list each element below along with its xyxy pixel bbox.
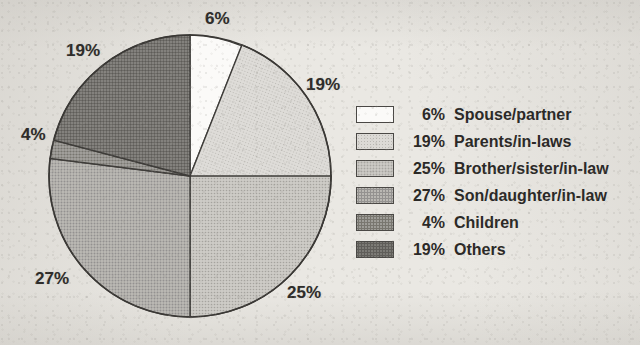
pie-chart-figure: 6% 19% 25% 27% 4% 19% 6% Spouse/partner … xyxy=(0,0,640,345)
legend-label: Son/daughter/in-law xyxy=(454,187,607,205)
legend-label: Spouse/partner xyxy=(454,106,571,124)
legend-percent: 27% xyxy=(403,187,445,205)
legend-swatch-icon xyxy=(356,241,394,258)
legend-item-son-daughter-in-law: 27% Son/daughter/in-law xyxy=(356,182,609,209)
legend-item-brother-sister-in-law: 25% Brother/sister/in-law xyxy=(356,155,609,182)
pie-label-others: 19% xyxy=(66,41,100,61)
pie-label-son-daughter-in-law: 27% xyxy=(35,269,69,289)
chart-legend: 6% Spouse/partner 19% Parents/in-laws 25… xyxy=(356,101,609,263)
legend-percent: 6% xyxy=(403,106,445,124)
legend-item-spouse-partner: 6% Spouse/partner xyxy=(356,101,609,128)
legend-swatch-icon xyxy=(356,187,394,204)
pie-label-parents-in-laws: 19% xyxy=(306,75,340,95)
legend-percent: 19% xyxy=(403,241,445,259)
legend-item-parents-in-laws: 19% Parents/in-laws xyxy=(356,128,609,155)
scanned-page: 6% 19% 25% 27% 4% 19% 6% Spouse/partner … xyxy=(0,0,640,345)
legend-swatch-icon xyxy=(356,133,394,150)
pie-label-spouse-partner: 6% xyxy=(205,9,230,29)
pie-label-brother-sister-in-law: 25% xyxy=(287,283,321,303)
legend-swatch-icon xyxy=(356,106,394,123)
legend-percent: 25% xyxy=(403,160,445,178)
legend-percent: 4% xyxy=(403,214,445,232)
legend-label: Brother/sister/in-law xyxy=(454,160,609,178)
pie-slice-son-daughter-in-law xyxy=(49,159,190,317)
legend-swatch-icon xyxy=(356,214,394,231)
legend-label: Parents/in-laws xyxy=(454,133,571,151)
legend-swatch-icon xyxy=(356,160,394,177)
legend-item-children: 4% Children xyxy=(356,209,609,236)
legend-label: Children xyxy=(454,214,519,232)
legend-item-others: 19% Others xyxy=(356,236,609,263)
legend-label: Others xyxy=(454,241,506,259)
legend-percent: 19% xyxy=(403,133,445,151)
pie-label-children: 4% xyxy=(21,125,46,145)
